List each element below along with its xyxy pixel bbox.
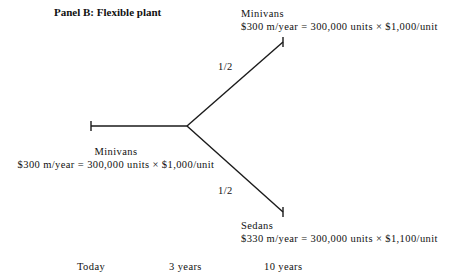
start-node-value: $300 m/year = 300,000 units × $1,000/uni… <box>5 158 227 171</box>
start-node-name: Minivans <box>5 145 227 158</box>
upper-node-label: Minivans $300 m/year = 300,000 units × $… <box>241 7 438 33</box>
timeline-today: Today <box>77 260 105 273</box>
lower-node-name: Sedans <box>241 219 438 232</box>
upper-node-value: $300 m/year = 300,000 units × $1,000/uni… <box>241 20 438 33</box>
upper-node-name: Minivans <box>241 7 438 20</box>
start-node-label: Minivans $300 m/year = 300,000 units × $… <box>5 145 227 171</box>
timeline-3-years: 3 years <box>169 260 202 273</box>
timeline-10-years: 10 years <box>264 260 302 273</box>
lower-node-value: $330 m/year = 300,000 units × $1,100/uni… <box>241 232 438 245</box>
lower-probability: 1/2 <box>218 184 233 197</box>
upper-branch-line <box>187 42 283 126</box>
lower-node-label: Sedans $330 m/year = 300,000 units × $1,… <box>241 219 438 245</box>
upper-probability: 1/2 <box>218 60 233 73</box>
